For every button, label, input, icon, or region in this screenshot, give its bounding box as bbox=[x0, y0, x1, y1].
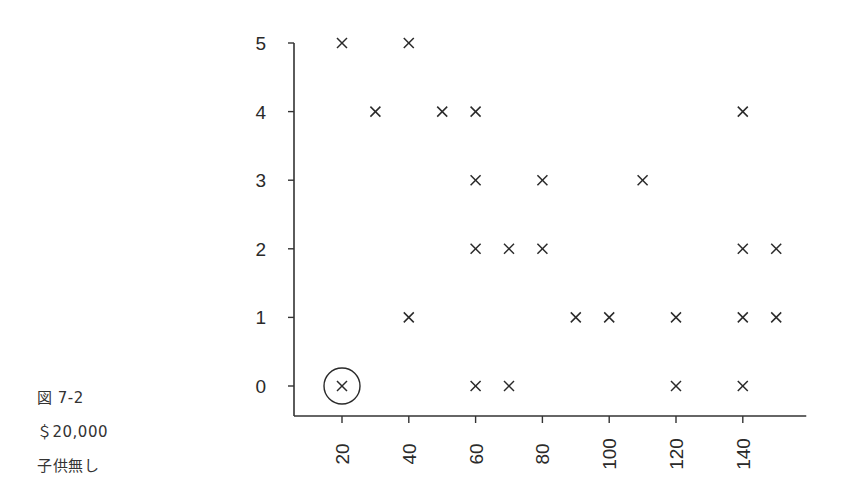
y-tick-label: 1 bbox=[255, 307, 266, 328]
y-tick-label: 2 bbox=[255, 239, 266, 260]
x-marker-icon bbox=[504, 381, 514, 391]
x-marker-icon bbox=[771, 312, 781, 322]
x-marker-icon bbox=[337, 381, 347, 391]
x-tick-label: 100 bbox=[599, 438, 620, 470]
scatter-chart: 012345 20406080100120140 bbox=[0, 0, 855, 498]
y-axis-ticks: 012345 bbox=[255, 33, 294, 397]
condition-label: 子供無し bbox=[37, 454, 99, 475]
x-marker-icon bbox=[671, 312, 681, 322]
x-marker-icon bbox=[604, 312, 614, 322]
axes bbox=[294, 43, 806, 416]
amount-label: ＄20,000 bbox=[37, 420, 108, 441]
x-marker-icon bbox=[471, 175, 481, 185]
x-marker-icon bbox=[671, 381, 681, 391]
figure-number: 図 7-2 bbox=[37, 386, 84, 407]
x-marker-icon bbox=[537, 244, 547, 254]
x-marker-icon bbox=[471, 244, 481, 254]
x-tick-label: 120 bbox=[666, 438, 687, 470]
x-tick-label: 60 bbox=[466, 443, 487, 464]
x-marker-icon bbox=[638, 175, 648, 185]
x-axis-ticks: 20406080100120140 bbox=[332, 416, 754, 470]
x-tick-label: 80 bbox=[532, 443, 553, 464]
x-marker-icon bbox=[404, 38, 414, 48]
x-tick-label: 140 bbox=[733, 438, 754, 470]
x-marker-icon bbox=[471, 381, 481, 391]
x-marker-icon bbox=[504, 244, 514, 254]
x-marker-icon bbox=[337, 38, 347, 48]
x-tick-label: 40 bbox=[399, 443, 420, 464]
y-tick-label: 4 bbox=[255, 102, 266, 123]
x-marker-icon bbox=[370, 107, 380, 117]
x-marker-icon bbox=[537, 175, 547, 185]
x-marker-icon bbox=[738, 381, 748, 391]
y-tick-label: 5 bbox=[255, 33, 266, 54]
x-marker-icon bbox=[571, 312, 581, 322]
x-tick-label: 20 bbox=[332, 443, 353, 464]
data-points bbox=[337, 38, 781, 391]
y-tick-label: 0 bbox=[255, 376, 266, 397]
x-marker-icon bbox=[738, 107, 748, 117]
x-marker-icon bbox=[771, 244, 781, 254]
x-marker-icon bbox=[437, 107, 447, 117]
x-marker-icon bbox=[404, 312, 414, 322]
x-marker-icon bbox=[738, 312, 748, 322]
x-marker-icon bbox=[738, 244, 748, 254]
y-tick-label: 3 bbox=[255, 170, 266, 191]
x-marker-icon bbox=[471, 107, 481, 117]
